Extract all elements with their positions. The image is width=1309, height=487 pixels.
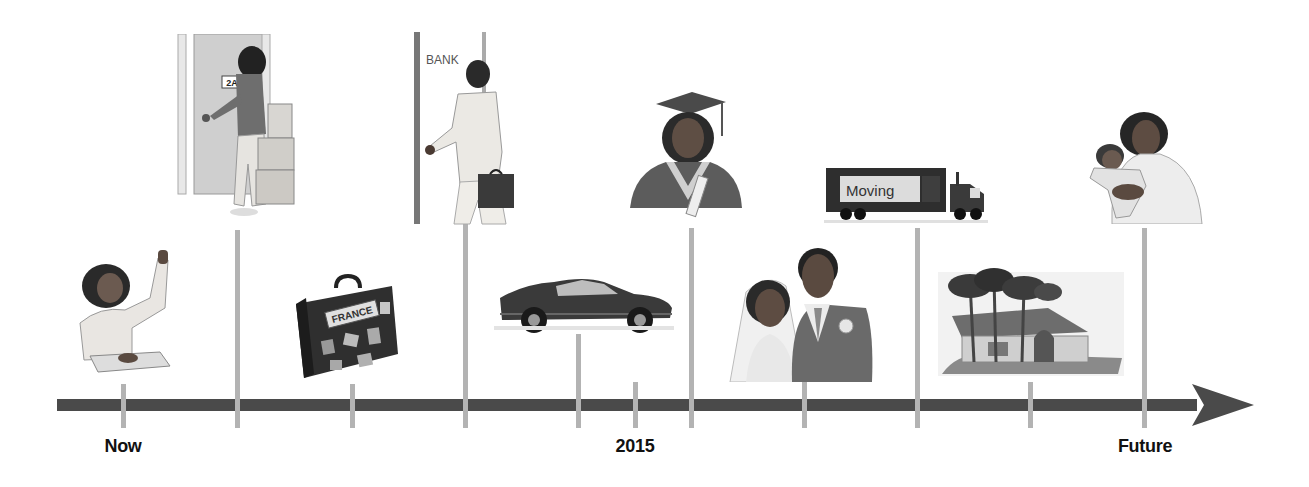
tick-bank [463,224,468,428]
student-raising-hand-illustration [70,248,180,378]
arrow-right-icon [1192,384,1256,426]
tick-now [121,384,126,428]
label-2015: 2015 [616,436,655,457]
bank-worker-illustration: BANK [412,32,522,226]
tick-france [350,384,355,428]
tick-2015 [633,382,638,428]
wedding-couple-illustration [726,242,876,382]
tick-apartment [235,230,240,428]
france-suitcase-illustration: FRANCE [292,274,404,382]
tick-moving [915,228,920,428]
moving-truck-illustration: Moving [824,166,990,224]
label-now: Now [104,436,141,457]
tick-wedding [802,382,807,428]
car-illustration [494,274,676,336]
label-future: Future [1118,436,1172,457]
house-illustration [938,262,1124,376]
bank-sign: BANK [426,53,459,67]
truck-moving-text: Moving [846,182,894,199]
tick-graduation [689,228,694,428]
timeline-axis [57,399,1197,411]
mother-with-baby-illustration [1080,112,1204,224]
graduation-illustration [626,90,746,224]
apartment-door-illustration: 2A [174,34,304,226]
tick-future [1142,228,1147,428]
tick-house [1028,382,1033,428]
tick-car [576,334,581,428]
